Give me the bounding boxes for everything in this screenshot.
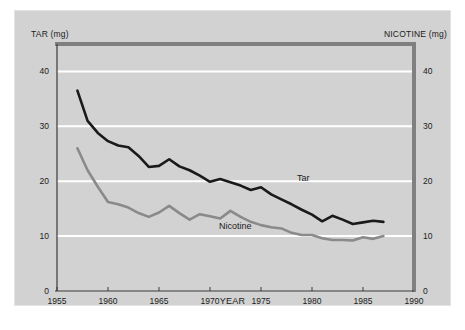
series-label-nicotine: Nicotine <box>219 221 252 231</box>
figure-container: TAR (mg) NICOTINE (mg) 010203040 0102030… <box>0 0 465 330</box>
line-chart-plot <box>0 0 465 330</box>
x-axis-title: YEAR <box>0 296 465 306</box>
series-label-tar: Tar <box>297 173 310 183</box>
gridlines <box>57 71 414 236</box>
series-lines <box>77 91 383 241</box>
axes-frame <box>55 42 415 292</box>
